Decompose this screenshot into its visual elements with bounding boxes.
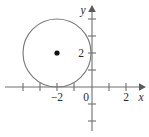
x-tick-label-0: 0	[83, 91, 89, 103]
coordinate-plot-svg: −2 0 2 2 x y	[0, 0, 149, 137]
circle-graph-figure: −2 0 2 2 x y	[0, 0, 149, 137]
y-axis-label: y	[79, 4, 86, 17]
x-tick-label--2: −2	[51, 91, 63, 103]
x-axis-arrow-icon	[139, 83, 146, 91]
x-tick-label-2: 2	[123, 91, 129, 103]
y-tick-label-2: 2	[78, 47, 84, 59]
x-axis-label: x	[137, 91, 144, 103]
y-axis-arrow-icon	[88, 5, 96, 12]
circle-center-point	[54, 50, 59, 55]
